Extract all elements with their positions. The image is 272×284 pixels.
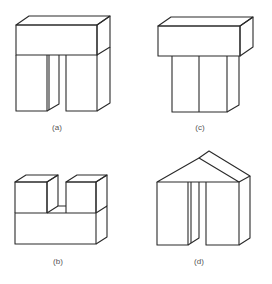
right-pillar-side xyxy=(97,47,110,111)
figure-a xyxy=(16,16,110,111)
gap-floor xyxy=(47,206,66,213)
left-pillar-side xyxy=(188,182,199,245)
slab-front-face xyxy=(158,26,240,56)
figure-d-label: (d) xyxy=(194,257,204,266)
right-pillar-front xyxy=(66,55,97,111)
left-pillar-front xyxy=(157,182,188,245)
figure-b xyxy=(15,175,107,244)
slab-side-face xyxy=(97,16,110,55)
figure-b-label: (b) xyxy=(53,257,63,266)
base-side-face xyxy=(96,206,107,244)
right-cube-front xyxy=(66,182,96,213)
slab-front-face xyxy=(16,25,97,55)
left-pillar-front xyxy=(16,55,47,111)
slab-top-face xyxy=(158,17,253,26)
slab-top-face xyxy=(16,16,110,25)
figure-d xyxy=(157,151,250,245)
right-pillar-front xyxy=(206,182,239,245)
figure-a-label: (a) xyxy=(52,123,62,132)
roof-slope xyxy=(199,151,250,182)
figure-c-label: (c) xyxy=(195,123,204,132)
slab-side-face xyxy=(240,17,253,56)
base-front-face xyxy=(15,213,96,244)
left-cube-front xyxy=(15,182,47,213)
figure-c xyxy=(158,17,253,112)
right-pillar-side xyxy=(239,176,250,245)
block-structures-diagram xyxy=(0,0,272,284)
pillars-side xyxy=(227,56,239,112)
